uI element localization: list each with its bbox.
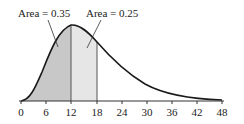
tick-label-30: 30	[142, 106, 154, 118]
tick-label-36: 36	[167, 106, 179, 118]
annotation-area-left: Area = 0.35	[18, 7, 71, 19]
tick-label-48: 48	[217, 106, 229, 118]
leader-line-left	[48, 20, 58, 47]
tick-label-24: 24	[117, 106, 129, 118]
x-tick-labels: 0 6 12 18 24 30 36 42 48	[18, 106, 228, 118]
tick-label-6: 6	[43, 106, 49, 118]
tick-label-18: 18	[92, 106, 104, 118]
tick-label-0: 0	[18, 106, 24, 118]
tick-label-42: 42	[192, 106, 203, 118]
annotation-area-right: Area = 0.25	[86, 7, 139, 19]
density-chart: 0 6 12 18 24 30 36 42 48 Area = 0.35 Are…	[0, 0, 244, 124]
tick-label-12: 12	[66, 106, 77, 118]
